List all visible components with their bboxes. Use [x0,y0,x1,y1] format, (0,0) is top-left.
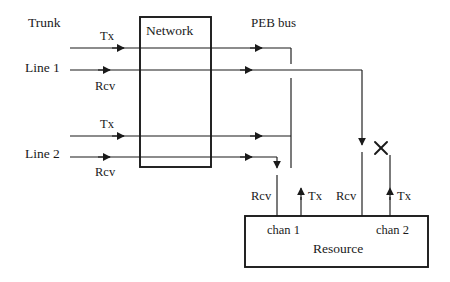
chan2-tx-label: Tx [397,190,411,203]
line2-tx-label: Tx [100,118,114,131]
diagram-canvas: Trunk Line 1 Line 2 Tx Rcv Tx Rcv PEB bu… [0,0,450,282]
chan1-tx-label: Tx [308,190,322,203]
chan1-label: chan 1 [267,224,300,237]
blocked-cross-icon [375,142,387,154]
line2-rcv-label: Rcv [95,166,115,179]
diagram-svg [0,0,450,282]
line1-label: Line 1 [25,61,60,75]
chan2-label: chan 2 [376,224,409,237]
network-box-label: Network [146,24,193,38]
trunk-tx-label: Tx [100,30,114,43]
network-box-outline [140,17,211,167]
resource-box-label: Resource [313,242,363,256]
chan1-rcv-label: Rcv [251,190,271,203]
trunk-label: Trunk [28,16,61,30]
line2-label: Line 2 [25,147,60,161]
line1-rcv-label: Rcv [95,80,115,93]
chan2-rcv-label: Rcv [336,190,356,203]
peb-bus-label: PEB bus [251,16,296,29]
